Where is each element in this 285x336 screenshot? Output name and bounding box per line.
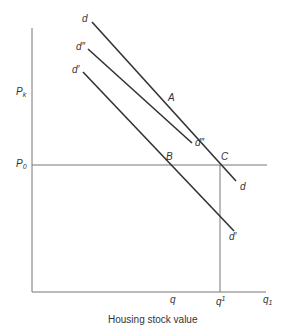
p0-label: P0 bbox=[16, 159, 27, 170]
tick-q1: q1 bbox=[263, 295, 272, 306]
diagram-canvas bbox=[0, 0, 285, 336]
point-c-label: C bbox=[221, 152, 228, 162]
curve-d-end-label: d bbox=[240, 182, 246, 192]
curve-d-prime-end-label: d′ bbox=[229, 232, 236, 242]
curve-d-double-prime-end-label: d″ bbox=[195, 138, 204, 148]
point-a-label: A bbox=[168, 93, 175, 103]
point-b-label: B bbox=[166, 152, 173, 162]
curve-d-double-prime-start-label: d″ bbox=[76, 42, 85, 52]
pk-label: Pk bbox=[16, 87, 26, 98]
curve-d-start-label: d bbox=[82, 14, 88, 24]
demand-curve-d-double-prime bbox=[88, 49, 192, 143]
curve-d-prime-start-label: d′ bbox=[72, 65, 79, 75]
x-axis-title: Housing stock value bbox=[108, 314, 198, 325]
tick-q: q bbox=[170, 295, 176, 305]
tick-q-prime: q1 bbox=[216, 295, 225, 307]
